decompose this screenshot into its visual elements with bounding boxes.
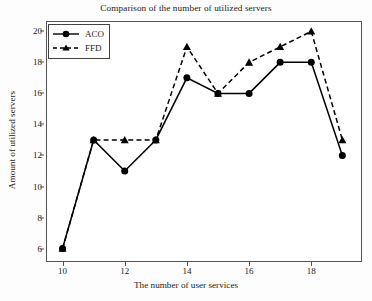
data-point-ffd [307, 27, 315, 34]
x-tick-label: 12 [113, 266, 137, 276]
y-tick-mark [40, 186, 44, 187]
legend-marker-triangle-icon [52, 42, 80, 54]
y-tick-label: 8 [20, 213, 42, 223]
y-axis-tick-labels: 68101214161820 [16, 21, 42, 262]
chart-title: Comparison of the number of utilized ser… [0, 3, 372, 13]
y-tick-label: 18 [20, 57, 42, 67]
data-point-ffd [338, 136, 346, 143]
legend-marker-line-icon [52, 28, 80, 40]
data-point-aco [183, 74, 190, 81]
data-point-aco [339, 152, 346, 159]
series-line-ffd [63, 31, 343, 248]
y-tick-mark [40, 155, 44, 156]
data-point-aco [308, 59, 315, 66]
y-tick-label: 12 [20, 150, 42, 160]
chart-legend: ACO FFD [48, 24, 110, 59]
y-tick-label: 20 [20, 26, 42, 36]
series-line-aco [63, 62, 343, 248]
x-tick-label: 10 [51, 266, 75, 276]
data-point-ffd [245, 58, 253, 65]
x-tick-label: 18 [299, 266, 323, 276]
data-point-aco [246, 90, 253, 97]
y-tick-mark [40, 124, 44, 125]
legend-label-0: ACO [80, 29, 104, 39]
y-tick-mark [40, 93, 44, 94]
x-tick-label: 16 [237, 266, 261, 276]
data-point-aco [121, 167, 128, 174]
y-tick-label: 16 [20, 88, 42, 98]
y-tick-label: 6 [20, 244, 42, 254]
data-point-ffd [183, 43, 191, 50]
data-point-ffd [276, 43, 284, 50]
legend-label-1: FFD [80, 43, 102, 53]
x-axis-label: The number of user services [0, 280, 372, 290]
y-tick-mark [40, 31, 44, 32]
x-axis-tick-labels: 1012141618 [46, 262, 362, 280]
chart-figure: Comparison of the number of utilized ser… [0, 0, 372, 301]
legend-item-1[interactable]: FFD [52, 41, 104, 55]
y-tick-label: 14 [20, 119, 42, 129]
y-tick-mark [40, 62, 44, 63]
y-tick-mark [40, 248, 44, 249]
legend-item-0[interactable]: ACO [52, 27, 104, 41]
y-tick-label: 10 [20, 182, 42, 192]
x-tick-label: 14 [175, 266, 199, 276]
data-point-aco [277, 59, 284, 66]
y-tick-mark [40, 217, 44, 218]
